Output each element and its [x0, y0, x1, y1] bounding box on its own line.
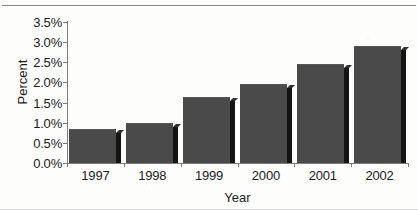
x-axis-tick-label: 2001	[309, 168, 337, 183]
x-axis-title: Year	[67, 190, 408, 205]
plot-area: 0.0%0.5%1.0%1.5%2.0%2.5%3.0%3.5%	[67, 22, 408, 163]
y-axis-tick	[63, 143, 67, 144]
y-axis-tick	[63, 62, 67, 63]
x-axis-tick	[408, 163, 409, 167]
bar-2002	[354, 46, 401, 163]
y-axis-tick-label: 0.0%	[33, 156, 62, 171]
y-axis-tick	[63, 103, 67, 104]
x-axis-tick	[67, 163, 68, 167]
x-axis-tick	[351, 163, 352, 167]
x-axis-tick	[124, 163, 125, 167]
x-axis-tick-label: 2002	[366, 168, 394, 183]
y-axis-tick-label: 1.5%	[33, 95, 62, 110]
y-axis-title: Percent	[14, 0, 30, 163]
bar-1998	[126, 123, 173, 163]
x-axis-tick	[181, 163, 182, 167]
y-axis-tick-label: 3.0%	[33, 35, 62, 50]
y-axis-tick-label: 2.5%	[33, 55, 62, 70]
bar-2000	[240, 84, 287, 163]
y-axis-tick-label: 0.5%	[33, 135, 62, 150]
y-axis-tick	[63, 22, 67, 23]
y-axis-tick	[63, 123, 67, 124]
bar-1999	[183, 97, 230, 163]
x-axis-tick-label: 1997	[81, 168, 109, 183]
x-axis-tick-label: 1998	[138, 168, 166, 183]
y-axis-title-label: Percent	[15, 59, 30, 104]
y-axis-tick-label: 1.0%	[33, 115, 62, 130]
x-axis-tick-label: 1999	[195, 168, 223, 183]
x-axis-tick-label: 2000	[252, 168, 280, 183]
y-axis-tick-label: 3.5%	[33, 15, 62, 30]
x-axis-tick	[294, 163, 295, 167]
y-axis-tick	[63, 82, 67, 83]
page-top-rule	[2, 5, 416, 6]
bar-2001	[297, 64, 344, 163]
page-bottom-rule	[0, 209, 418, 210]
bar-1997	[69, 129, 116, 163]
y-axis-tick	[63, 42, 67, 43]
bar-chart-figure: Percent 0.0%0.5%1.0%1.5%2.0%2.5%3.0%3.5%…	[0, 0, 418, 210]
y-axis-tick-label: 2.0%	[33, 75, 62, 90]
x-axis-tick	[238, 163, 239, 167]
